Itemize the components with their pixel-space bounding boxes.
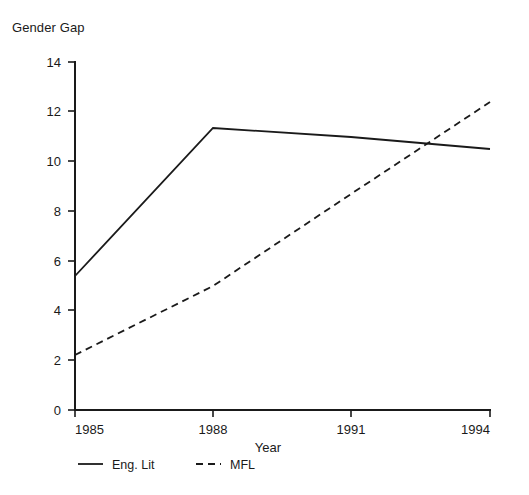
line-chart-plot: 14 12 10 8 6 4 2 0 1985 1988 1991 1994 Y… — [0, 0, 529, 495]
y-tick-label-8: 8 — [54, 204, 61, 219]
y-tick-label-10: 10 — [47, 154, 61, 169]
x-axis-title: Year — [255, 440, 282, 455]
y-tick-label-4: 4 — [54, 303, 61, 318]
series-line-eng-lit — [75, 128, 490, 276]
x-tick-label-1994: 1994 — [461, 422, 490, 437]
y-tick-label-2: 2 — [54, 353, 61, 368]
series-line-mfl — [75, 102, 490, 355]
chart-figure: Gender Gap 14 12 10 8 6 4 2 0 1985 1988 … — [0, 0, 529, 495]
legend-label-mfl: MFL — [230, 458, 255, 472]
y-tick-label-14: 14 — [47, 55, 61, 70]
x-tick-label-1991: 1991 — [337, 422, 366, 437]
y-tick-label-12: 12 — [47, 104, 61, 119]
y-tick-label-0: 0 — [54, 403, 61, 418]
legend-label-eng-lit: Eng. Lit — [112, 458, 155, 472]
x-tick-label-1985: 1985 — [75, 422, 104, 437]
legend: Eng. Lit MFL — [78, 458, 255, 472]
x-tick-label-1988: 1988 — [199, 422, 228, 437]
y-tick-label-6: 6 — [54, 254, 61, 269]
